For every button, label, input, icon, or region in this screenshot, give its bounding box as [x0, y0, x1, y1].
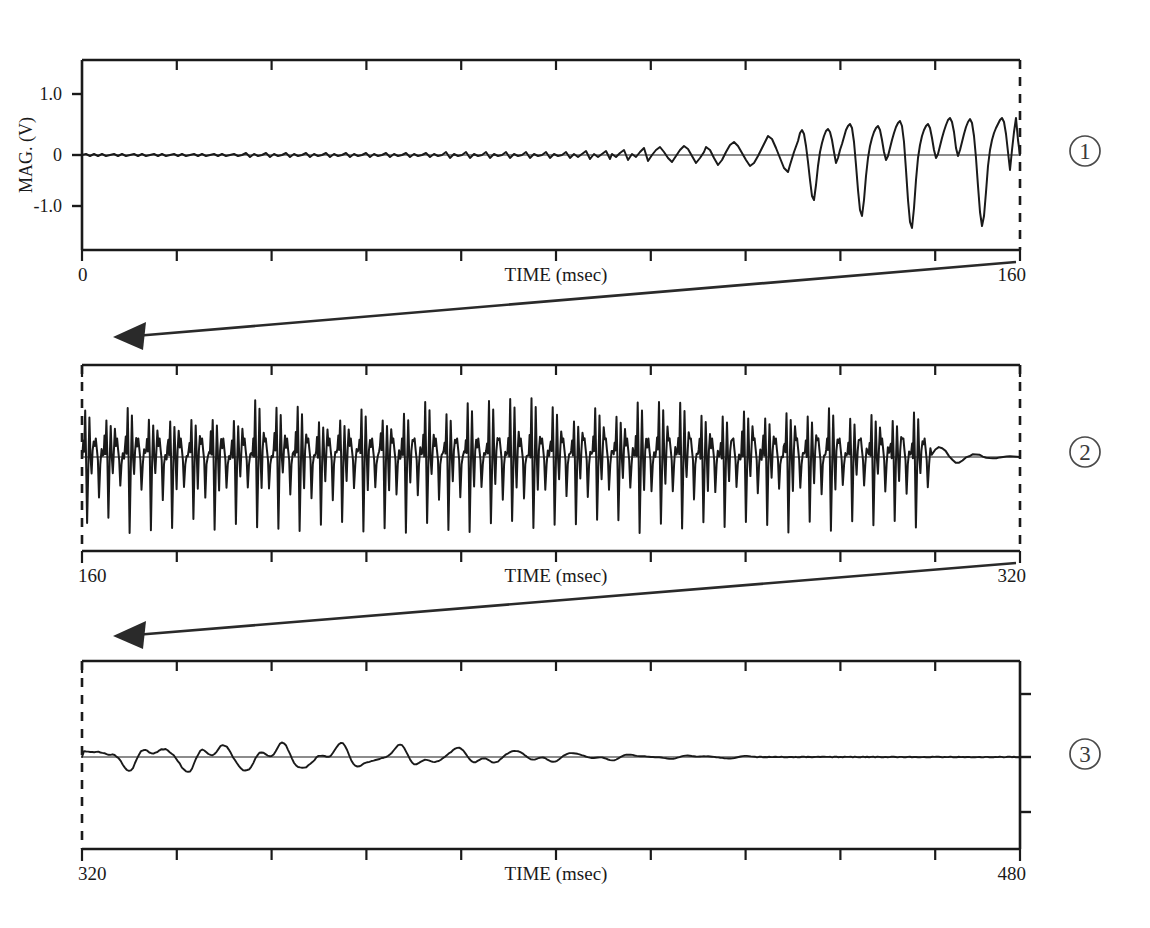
panel-3-x-axis-title: TIME (msec) — [505, 863, 608, 885]
multipanel-waveform-figure: 1.0 0 -1.0 MAG. (V) 0 160 TIME (msec) 1 — [0, 0, 1150, 928]
panel-3-y-ticks-right — [1020, 694, 1031, 812]
panel-2-number-text: 2 — [1079, 440, 1091, 465]
panel-1-ytick-neg1: -1.0 — [34, 196, 63, 216]
panel-1-x-end-label: 160 — [998, 264, 1027, 285]
panel-1-number-text: 1 — [1079, 139, 1091, 164]
panel-1-ytick-0: 0 — [53, 145, 62, 165]
panel-1-x-axis-title: TIME (msec) — [505, 264, 608, 286]
panel-1: 1.0 0 -1.0 MAG. (V) 0 160 TIME (msec) 1 — [16, 60, 1100, 286]
panel-2-x-start-label: 160 — [78, 565, 107, 586]
panel-3-number-badge: 3 — [1070, 739, 1100, 769]
panel-1-top-ticks — [177, 60, 935, 70]
panel-1-y-ticks — [72, 94, 82, 206]
panel-2-bottom-ticks — [82, 551, 1020, 563]
panel-2-number-badge: 2 — [1070, 437, 1100, 467]
panel-1-y-axis-title: MAG. (V) — [16, 117, 37, 193]
panel-3-bottom-ticks — [82, 849, 1020, 861]
panel-2-waveform-trace — [82, 398, 1020, 533]
figure-canvas: 1.0 0 -1.0 MAG. (V) 0 160 TIME (msec) 1 — [0, 0, 1150, 928]
panel-2-x-axis-title: TIME (msec) — [505, 565, 608, 587]
panel-1-number-badge: 1 — [1070, 136, 1100, 166]
panel-2-x-end-label: 320 — [998, 565, 1027, 586]
panel-1-x-start-label: 0 — [78, 264, 88, 285]
panel-1-waveform-trace — [82, 118, 1020, 228]
panel-3-top-ticks — [82, 661, 935, 673]
panel-3-number-text: 3 — [1079, 742, 1091, 767]
panel-3-x-end-label: 480 — [998, 863, 1027, 884]
panel-3-x-start-label: 320 — [78, 863, 107, 884]
panel-2-top-ticks — [82, 365, 1020, 377]
panel-1-ytick-1: 1.0 — [40, 84, 63, 104]
panel-1-bottom-ticks — [82, 250, 1020, 261]
panel-2: 160 320 TIME (msec) 2 — [78, 365, 1100, 587]
panel-3: 320 480 TIME (msec) 3 — [78, 661, 1100, 885]
